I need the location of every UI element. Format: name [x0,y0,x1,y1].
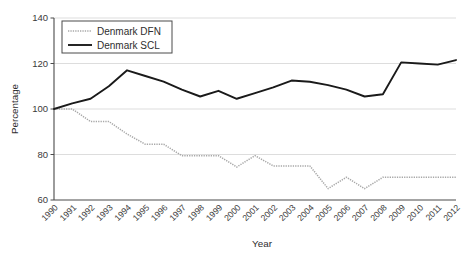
x-tick-label: 1999 [204,202,225,223]
x-tick-label: 2002 [259,202,280,223]
x-tick-label: 2005 [313,202,334,223]
x-tick-label: 2000 [222,202,243,223]
y-tick-label: 120 [32,58,48,69]
x-tick-label: 1992 [76,202,97,223]
series-line-denmark-scl [54,60,456,109]
chart-canvas: 6080100120140 19901991199219931994199519… [0,0,467,257]
series-line-denmark-dfn [54,109,456,189]
x-tick-label: 2009 [387,202,408,223]
y-axis-group: 6080100120140 [32,12,54,205]
y-axis-title: Percentage [9,83,20,134]
x-tick-label: 1993 [94,202,115,223]
x-tick-label: 2006 [332,202,353,223]
y-tick-label: 140 [32,12,48,23]
x-tick-label: 1991 [58,202,79,223]
y-tick-label: 60 [37,194,48,205]
x-axis-title: Year [252,238,273,249]
x-tick-label: 2012 [441,202,462,223]
line-chart: 6080100120140 19901991199219931994199519… [0,0,467,257]
x-tick-label: 2008 [368,202,389,223]
x-tick-label: 2003 [277,202,298,223]
y-tick-label: 80 [37,149,48,160]
x-tick-label: 1997 [167,202,188,223]
legend-item-denmark-scl-label: Denmark SCL [97,40,160,51]
legend-item-denmark-dfn-label: Denmark DFN [97,26,161,37]
x-tick-label: 1995 [131,202,152,223]
chart-legend: Denmark DFNDenmark SCL [62,21,172,53]
x-tick-label: 2001 [240,202,261,223]
x-axis-group: 1990199119921993199419951996199719981999… [39,200,462,223]
x-tick-label: 2007 [350,202,371,223]
x-tick-label: 1998 [186,202,207,223]
x-tick-label: 1994 [112,202,133,223]
y-tick-label: 100 [32,103,48,114]
x-tick-label: 2004 [295,202,316,223]
x-tick-label: 2011 [423,202,443,222]
x-tick-label: 2010 [405,202,426,223]
x-tick-label: 1996 [149,202,170,223]
